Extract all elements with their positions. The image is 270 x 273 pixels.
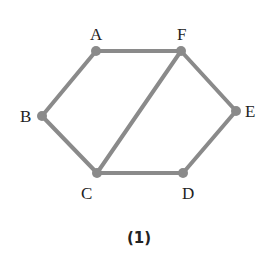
node-c — [92, 168, 102, 178]
label-e: E — [245, 102, 255, 121]
graph-diagram: A F B E C D (1) — [0, 0, 270, 273]
edges — [42, 51, 236, 173]
label-a: A — [90, 25, 103, 44]
edge-c-f — [97, 51, 181, 173]
edge-a-b — [42, 51, 96, 116]
figure-caption: (1) — [127, 229, 151, 247]
node-f — [176, 46, 186, 56]
edge-b-c — [42, 116, 97, 173]
label-c: C — [81, 184, 92, 203]
edge-f-e — [181, 51, 236, 111]
label-b: B — [20, 107, 31, 126]
node-a — [91, 46, 101, 56]
node-d — [178, 168, 188, 178]
label-d: D — [182, 184, 194, 203]
node-e — [231, 106, 241, 116]
edge-e-d — [183, 111, 236, 173]
node-b — [37, 111, 47, 121]
label-f: F — [177, 25, 186, 44]
